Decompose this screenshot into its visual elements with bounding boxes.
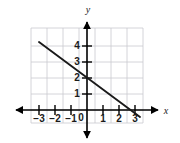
x-tick-label: 2 [116, 113, 122, 124]
x-axis-label: x [163, 105, 169, 116]
x-tick-label: −3 [33, 113, 45, 124]
x-tick-label-zero: 0 [78, 112, 84, 123]
y-tick-label: 4 [74, 40, 80, 51]
x-tick-label: −2 [49, 113, 61, 124]
x-tick-label: −1 [65, 113, 77, 124]
x-tick-label: 3 [132, 113, 138, 124]
x-tick-label: 1 [100, 113, 106, 124]
y-tick-label: 1 [74, 88, 80, 99]
y-axis-label: y [85, 4, 91, 15]
figure-background [0, 0, 180, 143]
coordinate-plane-figure: −3 −2 −1 0 1 2 3 1 2 3 4 x y [0, 0, 180, 143]
y-tick-label: 3 [74, 56, 80, 67]
y-tick-label: 2 [74, 72, 80, 83]
